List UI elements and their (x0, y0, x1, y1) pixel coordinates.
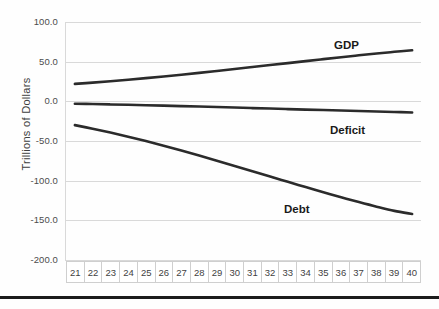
x-axis-cell: 40 (403, 262, 421, 282)
x-axis-cell: 39 (386, 262, 404, 282)
x-axis-cell: 30 (226, 262, 244, 282)
x-axis-cell: 25 (138, 262, 156, 282)
series-line-deficit (75, 104, 412, 113)
x-axis-cell: 37 (350, 262, 368, 282)
x-axis-cell: 32 (262, 262, 280, 282)
series-line-gdp (75, 50, 412, 84)
x-axis-cell: 22 (85, 262, 103, 282)
x-axis-cell: 26 (156, 262, 174, 282)
x-axis-cell: 31 (244, 262, 262, 282)
bottom-rule (0, 296, 439, 299)
series-label-gdp: GDP (334, 39, 359, 51)
x-axis-cell: 33 (279, 262, 297, 282)
x-axis-cell: 29 (209, 262, 227, 282)
series-line-debt (75, 125, 412, 214)
x-axis-cell: 36 (333, 262, 351, 282)
x-axis-cell: 21 (67, 262, 85, 282)
x-axis-cell: 28 (191, 262, 209, 282)
x-axis-cell: 38 (368, 262, 386, 282)
x-axis-cell: 24 (120, 262, 138, 282)
x-axis-cell: 34 (297, 262, 315, 282)
series-label-deficit: Deficit (330, 124, 365, 136)
x-axis-category-row: 2122232425262728293031323334353637383940 (66, 261, 421, 283)
x-axis-cell: 27 (173, 262, 191, 282)
x-axis-cell: 35 (315, 262, 333, 282)
series-label-debt: Debt (284, 203, 310, 215)
x-axis-cell: 23 (102, 262, 120, 282)
chart-figure: 100.050.00.0-50.0-100.0-150.0-200.0 Tril… (0, 0, 439, 309)
